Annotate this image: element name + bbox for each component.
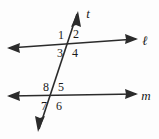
geometry-diagram-canvas: 1 2 3 4 8 5 7 6 t ℓ m [0,0,159,139]
line-l-right-arrow-icon [125,34,138,44]
parallel-lines-transversal-figure: 1 2 3 4 8 5 7 6 t ℓ m [0,0,159,139]
line-m-stroke [9,94,136,96]
line-t-top-arrow-icon [71,11,81,27]
angle-label-7: 7 [41,99,47,113]
line-t-bottom-arrow-icon [35,116,45,132]
angle-label-4: 4 [72,46,78,60]
angle-label-3: 3 [57,46,63,60]
line-m-group [7,89,138,101]
line-m-left-arrow-icon [7,91,20,101]
line-m-label: m [141,88,150,103]
angle-label-6: 6 [56,99,62,113]
line-l-left-arrow-icon [7,43,20,53]
angle-label-1: 1 [58,28,64,42]
line-name-labels-group: t ℓ m [86,6,151,103]
angle-labels-group: 1 2 3 4 8 5 7 6 [41,27,79,113]
angle-label-5: 5 [58,80,64,94]
angle-label-2: 2 [73,27,79,41]
line-l-label: ℓ [142,33,148,48]
line-t-label: t [86,6,90,21]
line-m-right-arrow-icon [125,89,138,99]
angle-label-8: 8 [43,80,49,94]
